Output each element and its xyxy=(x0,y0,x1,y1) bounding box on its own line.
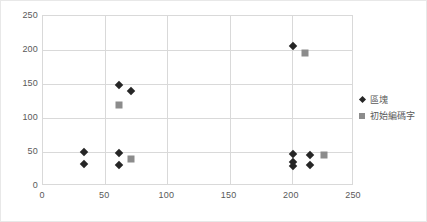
x-tick-label: 250 xyxy=(333,190,373,200)
data-point xyxy=(306,161,314,169)
x-tick-label: 50 xyxy=(84,190,124,200)
diamond-marker-icon xyxy=(357,97,367,102)
legend-item[interactable]: 初始編碼字 xyxy=(357,109,425,122)
data-point xyxy=(289,42,297,50)
gridline-horizontal xyxy=(43,152,352,153)
x-tick-label: 200 xyxy=(271,190,311,200)
data-point xyxy=(128,156,135,163)
gridline-horizontal xyxy=(43,84,352,85)
legend-item-label: 初始編碼字 xyxy=(370,109,415,122)
legend-item-label: 區塊 xyxy=(370,93,388,106)
data-point xyxy=(321,151,328,158)
x-axis-tick-labels: 050100150200250 xyxy=(42,190,353,206)
gridline-vertical xyxy=(230,16,231,184)
y-tick-label: 250 xyxy=(4,10,38,20)
y-tick-label: 50 xyxy=(4,146,38,156)
data-point xyxy=(289,162,297,170)
plot-area xyxy=(42,15,353,185)
y-tick-label: 0 xyxy=(4,180,38,190)
gridline-vertical xyxy=(167,16,168,184)
y-axis-tick-labels: 050100150200250 xyxy=(1,15,38,185)
data-point xyxy=(115,102,122,109)
chart-legend: 區塊初始編碼字 xyxy=(357,93,425,125)
data-point xyxy=(127,87,135,95)
data-point xyxy=(302,49,309,56)
y-tick-label: 100 xyxy=(4,112,38,122)
data-point xyxy=(115,148,123,156)
x-tick-label: 150 xyxy=(209,190,249,200)
square-marker-icon xyxy=(357,113,367,119)
data-point xyxy=(115,161,123,169)
scatter-chart: 050100150200250 050100150200250 區塊初始編碼字 xyxy=(0,0,427,222)
gridline-vertical xyxy=(105,16,106,184)
y-tick-label: 200 xyxy=(4,44,38,54)
data-point xyxy=(80,160,88,168)
data-point xyxy=(115,80,123,88)
legend-item[interactable]: 區塊 xyxy=(357,93,425,106)
x-tick-label: 100 xyxy=(146,190,186,200)
gridline-horizontal xyxy=(43,118,352,119)
y-tick-label: 150 xyxy=(4,78,38,88)
data-point xyxy=(80,148,88,156)
x-tick-label: 0 xyxy=(22,190,62,200)
